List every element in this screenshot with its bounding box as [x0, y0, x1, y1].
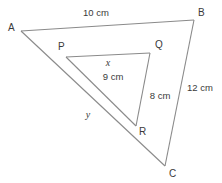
vertex-label-c: C	[169, 168, 176, 179]
side-label-ab: 10 cm	[83, 7, 109, 18]
side-label-pq: x	[105, 57, 111, 68]
vertex-label-a: A	[8, 22, 15, 33]
side-label-rp: 9 cm	[103, 71, 124, 82]
vertex-label-q: Q	[155, 39, 163, 50]
side-label-qr: 8 cm	[150, 90, 171, 101]
segment-ca	[21, 31, 165, 166]
side-label-ca: y	[85, 109, 91, 120]
vertex-label-r: R	[139, 126, 146, 137]
segment-ab	[21, 20, 194, 31]
vertex-label-b: B	[198, 7, 205, 18]
geometry-diagram: A B C P Q R 10 cm 12 cm y x 8 cm 9 cm	[0, 0, 222, 183]
segment-rp	[66, 57, 136, 126]
side-label-bc: 12 cm	[187, 82, 213, 93]
segment-qr	[136, 53, 150, 126]
vertex-label-p: P	[58, 41, 65, 52]
geometry-canvas: A B C P Q R 10 cm 12 cm y x 8 cm 9 cm	[0, 0, 222, 183]
